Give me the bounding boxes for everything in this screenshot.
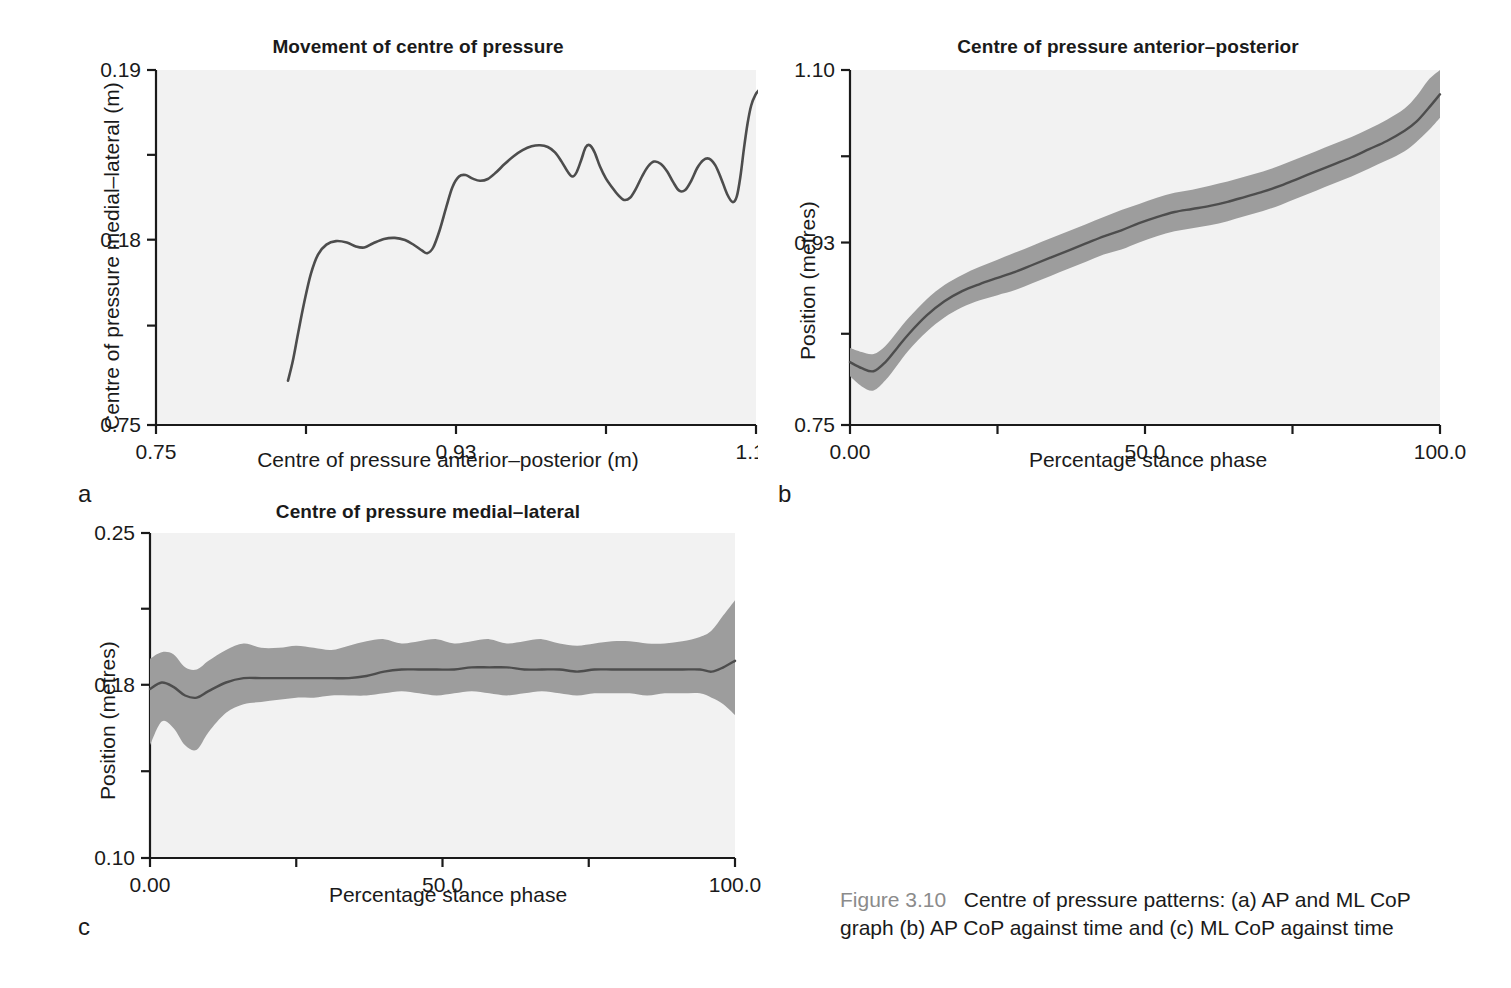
panel-b-title: Centre of pressure anterior–posterior: [818, 36, 1438, 58]
panel-c-letter: c: [78, 913, 90, 941]
panel-c-yaxis-label: Position (metres): [96, 641, 120, 800]
panel-b-plot: 1.100.930.750.0050.0100.0: [778, 58, 1478, 478]
panel-a-yaxis-label: Centre of pressure medial–lateral (m): [100, 82, 124, 430]
panel-c-xaxis-label: Percentage stance phase: [158, 883, 738, 907]
figure-caption-line2: graph (b) AP CoP against time and (c) ML…: [840, 916, 1394, 939]
panel-a-plot: 0.190.180.750.750.931.10: [78, 58, 758, 478]
figure-number: Figure 3.10: [840, 888, 946, 911]
figure-caption: Figure 3.10 Centre of pressure patterns:…: [840, 886, 1480, 942]
y-tick-label: 1.10: [794, 58, 835, 81]
panel-c-plot: 0.250.180.100.0050.0100.0: [78, 523, 778, 913]
y-tick-label: 0.19: [100, 58, 141, 81]
y-tick-label: 0.25: [94, 523, 135, 544]
panel-a: Movement of centre of pressure 0.190.180…: [78, 30, 758, 500]
y-tick-label: 0.10: [94, 846, 135, 869]
panel-b: Centre of pressure anterior–posterior 1.…: [778, 30, 1478, 500]
panel-b-letter: b: [778, 480, 791, 508]
panel-a-xaxis-label: Centre of pressure anterior–posterior (m…: [168, 448, 728, 472]
panel-a-title: Movement of centre of pressure: [108, 36, 728, 58]
panel-b-xaxis-label: Percentage stance phase: [858, 448, 1438, 472]
figure-caption-line1: Centre of pressure patterns: (a) AP and …: [964, 888, 1411, 911]
panel-c-title: Centre of pressure medial–lateral: [118, 501, 738, 523]
x-tick-label: 1.10: [736, 440, 758, 463]
panel-c: Centre of pressure medial–lateral 0.250.…: [78, 495, 778, 955]
panel-b-yaxis-label: Position (metres): [796, 201, 820, 360]
y-tick-label: 0.75: [794, 413, 835, 436]
